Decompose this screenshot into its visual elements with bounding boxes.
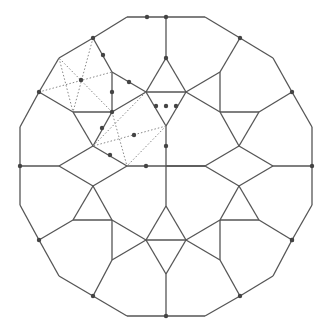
diagram-canvas <box>0 0 327 332</box>
tiling-diagram <box>0 0 327 332</box>
dotted-edges <box>39 38 166 166</box>
solid-edges <box>20 17 312 316</box>
